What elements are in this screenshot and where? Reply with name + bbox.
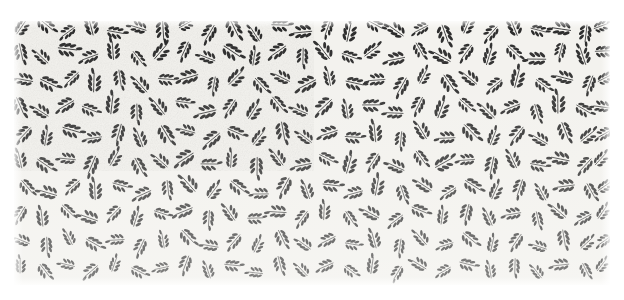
leaf-sprig	[314, 231, 338, 250]
leaf-sprig	[484, 231, 503, 254]
leaf-sprig	[191, 103, 217, 121]
leaf-sprig	[310, 34, 335, 63]
leaf-sprig	[169, 201, 195, 221]
leaf-sprig	[14, 95, 31, 122]
leaf-sprig	[291, 257, 312, 280]
leaf-sprig	[248, 125, 272, 149]
leaf-sprig	[531, 211, 545, 232]
leaf-sprig	[480, 74, 505, 97]
leaf-sprig	[270, 174, 296, 202]
leaf-sprig	[272, 255, 288, 277]
leaf-sprig	[340, 208, 360, 231]
leaf-sprig	[224, 122, 250, 145]
leaf-sprig	[128, 48, 149, 72]
leaf-sprig	[480, 204, 498, 227]
leaf-sprig	[262, 40, 289, 64]
leaf-sprig	[529, 22, 553, 42]
motif-layer	[14, 21, 610, 285]
leaf-sprig	[380, 103, 404, 121]
leaf-sprig	[592, 21, 610, 34]
leaf-sprig	[35, 261, 57, 285]
leaf-sprig	[435, 182, 459, 202]
leaf-sprig	[410, 40, 430, 64]
leaf-sprig	[480, 154, 502, 181]
leaf-sprig	[157, 71, 180, 89]
leaf-sprig	[593, 254, 610, 275]
leaf-sprig	[294, 47, 311, 70]
leaf-sprig	[455, 95, 478, 119]
leaf-sprig	[197, 236, 220, 254]
leaf-sprig	[574, 41, 593, 67]
leaf-sprig	[361, 97, 386, 115]
leaf-sprig	[497, 98, 522, 117]
leaf-sprig	[267, 93, 291, 119]
leaf-sprig	[171, 38, 195, 64]
leaf-sprig	[344, 129, 368, 147]
leaf-sprig	[504, 21, 525, 38]
leaf-sprig	[381, 50, 405, 67]
leaf-sprig	[199, 209, 216, 232]
leaf-sprig	[552, 178, 575, 193]
leaf-sprig	[274, 121, 291, 146]
pattern-canvas	[14, 21, 610, 285]
leaf-sprig	[316, 198, 333, 221]
leaf-sprig	[128, 70, 153, 97]
leaf-sprig	[270, 21, 294, 35]
leaf-sprig	[38, 123, 57, 147]
leaf-sprig	[356, 200, 382, 225]
leaf-sprig	[14, 122, 35, 147]
leaf-sprig	[223, 258, 246, 275]
leaf-sprig	[224, 64, 251, 90]
leaf-sprig	[590, 125, 610, 144]
leaf-sprig	[298, 177, 316, 201]
leaf-sprig	[29, 43, 53, 68]
leaf-sprig	[503, 230, 527, 254]
leaf-sprig	[33, 153, 60, 180]
leaf-sprig	[431, 262, 453, 280]
leaf-sprig	[106, 121, 128, 148]
leaf-sprig	[272, 228, 292, 253]
leaf-sprig	[433, 129, 456, 145]
leaf-sprig	[414, 63, 436, 87]
leaf-sprig	[433, 237, 454, 252]
leaf-sprig	[195, 21, 220, 48]
leaf-sprig	[74, 205, 101, 228]
leaf-sprig	[485, 177, 508, 203]
leaf-sprig	[549, 65, 576, 87]
leaf-sprig	[128, 262, 152, 284]
leaf-sprig	[385, 263, 406, 285]
leaf-sprig	[307, 94, 336, 121]
leaf-sprig	[149, 37, 177, 64]
leaf-sprig	[127, 204, 149, 229]
leaf-sprig	[407, 21, 430, 39]
leaf-sprig	[339, 21, 362, 44]
leaf-sprig	[577, 73, 599, 98]
leaf-sprig	[545, 196, 571, 222]
leaf-sprig	[364, 252, 383, 276]
leaf-sprig	[106, 36, 122, 60]
pattern-field	[14, 21, 610, 285]
leaf-sprig	[571, 154, 597, 179]
leaf-sprig	[77, 152, 102, 181]
leaf-sprig	[532, 179, 551, 203]
leaf-sprig	[550, 41, 569, 64]
leaf-sprig	[14, 253, 28, 274]
leaf-sprig	[322, 65, 337, 87]
leaf-sprig	[316, 21, 337, 41]
leaf-sprig	[219, 39, 249, 68]
pattern-swatch-root	[0, 0, 624, 300]
leaf-sprig	[477, 22, 502, 46]
leaf-sprig	[391, 130, 408, 153]
leaf-sprig	[343, 237, 365, 254]
leaf-sprig	[87, 176, 104, 201]
leaf-sprig	[410, 171, 436, 196]
leaf-sprig	[577, 261, 595, 283]
leaf-sprig	[316, 149, 341, 172]
leaf-sprig	[200, 258, 216, 279]
leaf-sprig	[503, 41, 527, 66]
leaf-sprig	[341, 185, 363, 201]
leaf-sprig	[82, 21, 100, 36]
leaf-sprig	[175, 168, 201, 196]
leaf-sprig	[570, 209, 594, 228]
leaf-sprig	[248, 232, 269, 255]
